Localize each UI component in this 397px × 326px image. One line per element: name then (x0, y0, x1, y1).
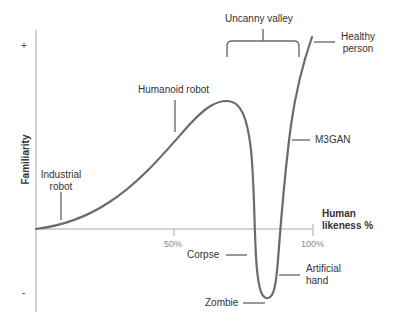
familiarity-curve (36, 37, 312, 298)
tick-50-label: 50% (164, 238, 182, 250)
humanoid-robot-label: Humanoid robot (138, 84, 209, 96)
industrial-robot-label-2: robot (38, 181, 84, 193)
uncanny-valley-label: Uncanny valley (225, 13, 293, 25)
y-axis-label: Familiarity (20, 125, 31, 195)
x-axis-label-line2: likeness % (322, 220, 373, 232)
x-axis-label-line1: Human (322, 208, 356, 220)
y-minus-label: - (22, 287, 25, 299)
y-plus-label: + (21, 40, 27, 52)
m3gan-label: M3GAN (315, 134, 351, 146)
artificial-hand-label-2: hand (306, 275, 328, 287)
zombie-label: Zombie (205, 297, 238, 309)
healthy-person-label-1: Healthy (336, 31, 380, 43)
industrial-robot-label-1: Industrial (38, 169, 84, 181)
healthy-person-label-2: person (336, 43, 380, 55)
tick-100-label: 100% (301, 238, 324, 250)
corpse-label: Corpse (187, 249, 219, 261)
artificial-hand-label-1: Artificial (306, 263, 341, 275)
uncanny-valley-bracket (227, 29, 299, 57)
